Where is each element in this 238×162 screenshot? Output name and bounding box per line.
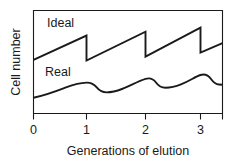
x-tick-label-1: 1 (83, 123, 90, 137)
x-axis-title: Generations of elution (67, 144, 189, 158)
series-annotation-ideal: Ideal (47, 16, 74, 30)
series-annotation-real: Real (45, 65, 71, 79)
x-axis-ticks (34, 114, 223, 120)
chart-figure: Ideal Real 0 1 2 3 Generations of elutio… (0, 0, 238, 162)
y-axis-title: Cell number (9, 28, 23, 95)
x-tick-label-0: 0 (30, 123, 37, 137)
chart-svg: Ideal Real 0 1 2 3 Generations of elutio… (0, 0, 238, 162)
x-tick-label-2: 2 (142, 123, 149, 137)
series-line-ideal (34, 28, 223, 61)
x-tick-label-3: 3 (197, 123, 204, 137)
